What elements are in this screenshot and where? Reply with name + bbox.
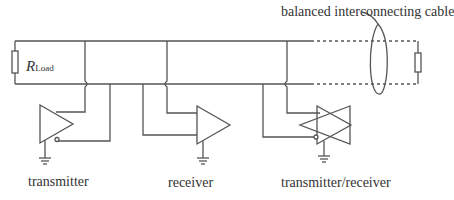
receiver-wiring — [143, 41, 197, 135]
transmitter-label: transmitter — [28, 174, 89, 190]
transceiver-label: transmitter/receiver — [281, 175, 391, 191]
transmitter-wiring — [56, 41, 110, 141]
load-resistor-right — [415, 41, 421, 84]
receiver-label: receiver — [168, 175, 213, 191]
resistor-symbol: R — [26, 58, 35, 74]
resistor-label: RLoad — [26, 57, 54, 75]
load-resistor-left — [12, 41, 18, 84]
transceiver-wiring — [263, 41, 320, 137]
transceiver-symbol — [300, 106, 351, 162]
resistor-subscript: Load — [35, 63, 54, 73]
transmitter-symbol — [39, 105, 73, 164]
cable-label: balanced interconnecting cable — [281, 4, 454, 20]
receiver-symbol — [197, 106, 230, 164]
cable-ellipse — [362, 12, 387, 94]
